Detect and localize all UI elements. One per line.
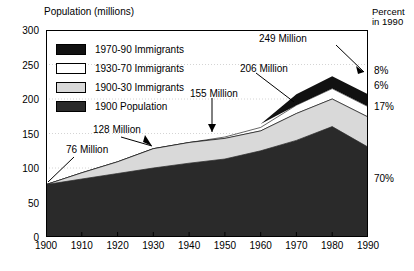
percent-label-8: 8%: [374, 65, 388, 76]
percent-label-17: 17%: [374, 101, 394, 112]
population-immigration-area-chart: Population (millions) Percent in 1990 30…: [0, 0, 414, 271]
percent-label-70: 70%: [374, 173, 394, 184]
right-axis-percent-labels: 8% 6% 17% 70%: [0, 0, 414, 271]
percent-label-6: 6%: [374, 80, 388, 91]
